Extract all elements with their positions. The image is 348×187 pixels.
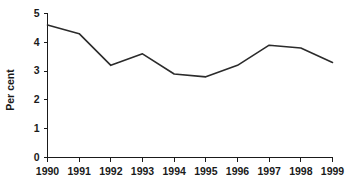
y-tick-labels: 012345 xyxy=(34,7,40,163)
y-tick-label: 4 xyxy=(34,36,40,48)
y-axis-title: Per cent xyxy=(4,69,16,111)
y-tick-marks xyxy=(44,14,48,158)
x-tick-label: 1997 xyxy=(257,165,281,177)
x-tick-label: 1993 xyxy=(131,165,155,177)
y-tick-label: 2 xyxy=(34,93,40,105)
y-tick-label: 3 xyxy=(34,64,40,76)
y-tick-label: 5 xyxy=(34,7,40,19)
data-line xyxy=(48,25,333,77)
x-tick-label: 1999 xyxy=(321,165,345,177)
data-series-group xyxy=(48,25,333,77)
x-tick-label: 1991 xyxy=(67,165,91,177)
y-tick-label: 1 xyxy=(34,122,40,134)
y-tick-label: 0 xyxy=(34,151,40,163)
x-tick-label: 1996 xyxy=(226,165,250,177)
x-tick-marks xyxy=(48,158,333,162)
x-tick-label: 1998 xyxy=(289,165,313,177)
x-tick-labels: 1990199119921993199419951996199719981999 xyxy=(36,165,345,177)
x-tick-label: 1994 xyxy=(162,165,186,177)
chart-canvas: 012345 199019911992199319941995199619971… xyxy=(0,0,348,187)
x-tick-label: 1995 xyxy=(194,165,218,177)
x-tick-label: 1992 xyxy=(99,165,123,177)
line-chart: 012345 199019911992199319941995199619971… xyxy=(0,0,348,187)
x-tick-label: 1990 xyxy=(36,165,60,177)
